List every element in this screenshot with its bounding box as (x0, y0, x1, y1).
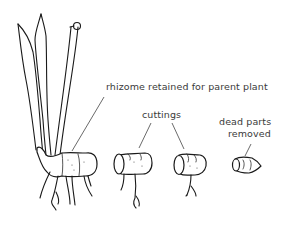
parent-plant-leaves (18, 14, 81, 155)
dead-part (233, 157, 262, 173)
cuttings-label: cuttings (142, 109, 181, 120)
diagram-canvas: rhizome retained for parent plant cuttin… (0, 0, 288, 228)
cutting-1 (114, 153, 152, 208)
cuttings-leader-line-2 (172, 123, 184, 149)
rhizome-label: rhizome retained for parent plant (106, 81, 268, 92)
cuttings-leader-line-1 (139, 123, 151, 148)
rhizome-leader-line (72, 97, 104, 151)
cutting-2 (174, 154, 206, 196)
parent-rhizome (37, 147, 97, 210)
dead-parts-leader-line (245, 144, 251, 156)
removed-label: removed (228, 128, 271, 139)
dead-parts-label: dead parts (219, 116, 271, 127)
